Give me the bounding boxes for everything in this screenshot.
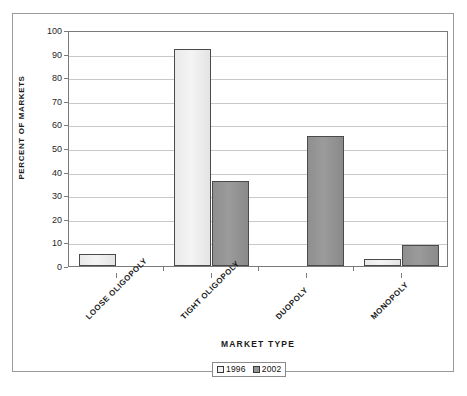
y-tick-label: 100	[32, 26, 62, 36]
bar-monopoly-1996	[364, 259, 401, 266]
legend-item-2002: 2002	[253, 364, 282, 374]
bar-duopoly-2002	[307, 136, 344, 266]
gridline	[69, 79, 447, 80]
gridline	[69, 197, 447, 198]
plot-area	[68, 31, 448, 267]
gridline	[69, 150, 447, 151]
gridline	[69, 56, 447, 57]
x-tick-mark	[353, 267, 354, 271]
y-tick-label: 50	[32, 144, 62, 154]
gridline	[69, 174, 447, 175]
x-tick-mark	[258, 267, 259, 271]
y-tick-label: 40	[32, 168, 62, 178]
y-tick-label: 30	[32, 191, 62, 201]
y-axis-title: PERCENT OF MARKETS	[17, 68, 26, 188]
bar-tight-oligopoly-1996	[174, 49, 211, 266]
chart-figure: PERCENT OF MARKETS 010203040506070809010…	[0, 0, 467, 396]
y-tick-label: 10	[32, 238, 62, 248]
y-tick-label: 80	[32, 73, 62, 83]
gridline	[69, 221, 447, 222]
legend-swatch-icon	[217, 366, 224, 373]
legend-label: 2002	[262, 364, 282, 374]
y-tick-mark	[64, 267, 68, 268]
gridline	[69, 244, 447, 245]
bar-loose-oligopoly-1996	[79, 254, 116, 266]
gridline	[69, 126, 447, 127]
x-tick-mark	[163, 267, 164, 271]
x-tick-mark-center	[116, 273, 117, 278]
x-tick-mark-center	[211, 273, 212, 278]
x-axis-title: MARKET TYPE	[68, 339, 448, 349]
x-tick-mark-center	[401, 273, 402, 278]
y-tick-label: 70	[32, 97, 62, 107]
gridline	[69, 103, 447, 104]
chart-legend: 19962002	[212, 362, 286, 377]
y-tick-label: 0	[32, 262, 62, 272]
y-tick-label: 60	[32, 120, 62, 130]
bar-monopoly-2002	[402, 245, 439, 266]
bar-tight-oligopoly-2002	[212, 181, 249, 266]
y-tick-label: 20	[32, 215, 62, 225]
legend-item-1996: 1996	[217, 364, 246, 374]
y-tick-label: 90	[32, 50, 62, 60]
x-tick-mark-center	[306, 273, 307, 278]
legend-swatch-icon	[253, 366, 260, 373]
legend-label: 1996	[226, 364, 246, 374]
